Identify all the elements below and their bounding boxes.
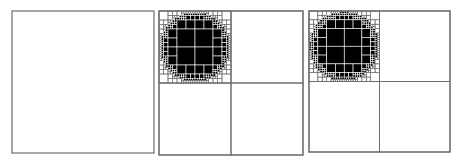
quadrant-top-left (309, 11, 380, 82)
quadrant-bottom-left (309, 82, 380, 153)
quadrant-top-left (159, 11, 231, 83)
panel-border (12, 11, 154, 153)
quadtree-diagram (0, 0, 459, 164)
quadtree-level-decomposition (159, 11, 303, 155)
quadrant-top-right (380, 11, 451, 82)
root-node-empty (12, 11, 154, 153)
quadtree-refined-decomposition (309, 11, 450, 152)
quadrant-bottom-left (159, 83, 231, 155)
quadrant-bottom-right (231, 83, 303, 155)
quadrant-top-right (231, 11, 303, 83)
quadtree-figure (0, 0, 459, 164)
quadrant-bottom-right (380, 82, 451, 153)
